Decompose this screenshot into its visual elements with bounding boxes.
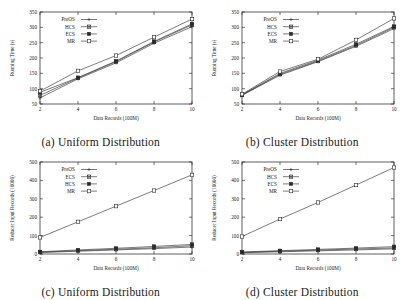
legend: PreOSECSHCSMR [61, 166, 97, 194]
y-tick-label: 0 [34, 251, 37, 257]
legend-label-ECS: ECS [267, 31, 277, 37]
x-tick-label: 4 [77, 256, 80, 262]
panel-d-caption: (d) Cluster Distribution [202, 286, 403, 298]
series-ECS [38, 22, 193, 94]
x-tick-label: 6 [316, 256, 319, 262]
x-tick-label: 8 [153, 106, 156, 112]
legend: PreOSHCSECSMR [61, 16, 97, 44]
y-tick-label: 150 [29, 70, 37, 76]
y-axis-label: Reducer Input Records (10000) [9, 175, 16, 241]
x-tick-label: 4 [278, 106, 281, 112]
x-axis-label: Data Records (100M) [295, 265, 341, 272]
legend-label-HCS: HCS [266, 174, 276, 180]
x-tick-label: 2 [240, 106, 243, 112]
y-tick-label: 150 [231, 70, 239, 76]
x-tick-label: 4 [278, 256, 281, 262]
panel-b-svg: 50100150200250300350246810Data Records (… [202, 0, 403, 128]
y-axis-label: Running Time (s) [211, 39, 218, 76]
y-tick-label: 100 [29, 233, 37, 239]
x-tick-label: 8 [354, 106, 357, 112]
legend: PreOSHCSECSMR [263, 166, 299, 194]
series-MR [38, 17, 193, 92]
legend-label-PreOS: PreOS [61, 166, 75, 172]
legend-label-ECS: ECS [65, 31, 75, 37]
x-tick-label: 2 [39, 256, 42, 262]
y-tick-label: 50 [233, 101, 239, 107]
y-tick-label: 500 [29, 159, 37, 165]
x-axis-label: Data Records (100M) [93, 265, 139, 272]
legend: PreOSHCSECSMR [263, 16, 299, 44]
x-tick-label: 6 [115, 106, 118, 112]
y-tick-label: 300 [231, 196, 239, 202]
x-tick-label: 2 [240, 256, 243, 262]
panel-c-caption: (c) Uniform Distribution [0, 286, 202, 298]
x-tick-label: 6 [115, 256, 118, 262]
y-axis: 50100150200250300350 [231, 9, 394, 107]
legend-label-PreOS: PreOS [61, 16, 75, 22]
legend-label-HCS: HCS [65, 181, 75, 187]
figure-row-bottom: 0100200300400500246810Data Records (100M… [0, 150, 403, 300]
y-tick-label: 300 [29, 24, 37, 30]
x-tick-label: 8 [354, 256, 357, 262]
figure-row-top: 50100150200250300350246810Data Records (… [0, 0, 403, 150]
panel-b-plot: 50100150200250300350246810Data Records (… [202, 0, 403, 128]
x-tick-label: 4 [77, 106, 80, 112]
y-tick-label: 200 [29, 214, 37, 220]
y-tick-label: 300 [29, 196, 37, 202]
x-tick-label: 10 [189, 256, 195, 262]
x-tick-label: 8 [153, 256, 156, 262]
y-tick-label: 350 [231, 9, 239, 15]
x-tick-label: 2 [39, 106, 42, 112]
legend-label-MR: MR [268, 38, 277, 44]
legend-label-ECS: ECS [65, 174, 75, 180]
legend-label-PreOS: PreOS [263, 16, 277, 22]
y-tick-label: 100 [231, 233, 239, 239]
y-tick-label: 500 [231, 159, 239, 165]
y-tick-label: 250 [231, 40, 239, 46]
legend-label-HCS: HCS [65, 24, 75, 30]
x-axis-label: Data Records (100M) [295, 115, 341, 122]
x-axis-label: Data Records (100M) [93, 115, 139, 122]
y-axis-label: Running Time (s) [9, 39, 16, 76]
legend-label-MR: MR [268, 188, 277, 194]
panel-a-plot: 50100150200250300350246810Data Records (… [0, 0, 202, 128]
y-tick-label: 400 [29, 177, 37, 183]
legend-label-ECS: ECS [267, 181, 277, 187]
panel-d-svg: 0100200300400500246810Data Records (100M… [202, 150, 403, 278]
y-tick-label: 250 [29, 40, 37, 46]
panel-c-svg: 0100200300400500246810Data Records (100M… [0, 150, 202, 278]
legend-label-MR: MR [67, 38, 76, 44]
panel-d-plot: 0100200300400500246810Data Records (100M… [202, 150, 403, 278]
plot-frame [40, 12, 192, 104]
x-tick-label: 10 [189, 106, 195, 112]
y-tick-label: 400 [231, 177, 239, 183]
legend-label-HCS: HCS [266, 24, 276, 30]
panel-a: 50100150200250300350246810Data Records (… [0, 0, 202, 150]
x-tick-label: 10 [391, 106, 397, 112]
y-tick-label: 350 [29, 9, 37, 15]
y-tick-label: 100 [231, 86, 239, 92]
y-tick-label: 100 [29, 86, 37, 92]
panel-b-caption: (b) Cluster Distribution [202, 136, 403, 148]
y-tick-label: 50 [32, 101, 38, 107]
y-tick-label: 200 [231, 55, 239, 61]
panel-a-caption: (a) Uniform Distribution [0, 136, 202, 148]
panel-c: 0100200300400500246810Data Records (100M… [0, 150, 202, 300]
y-tick-label: 300 [231, 24, 239, 30]
series-MR [38, 173, 193, 239]
x-tick-label: 6 [316, 106, 319, 112]
y-tick-label: 0 [236, 251, 239, 257]
plot-frame [242, 162, 394, 254]
series-MR [240, 166, 395, 238]
panel-b: 50100150200250300350246810Data Records (… [202, 0, 403, 150]
panel-c-plot: 0100200300400500246810Data Records (100M… [0, 150, 202, 278]
x-tick-label: 10 [391, 256, 397, 262]
panel-a-svg: 50100150200250300350246810Data Records (… [0, 0, 202, 128]
y-axis: 0100200300400500 [231, 159, 394, 257]
y-axis: 0100200300400500 [29, 159, 192, 257]
legend-label-MR: MR [67, 188, 76, 194]
y-tick-label: 200 [231, 214, 239, 220]
figure-four-panel-line-charts: 50100150200250300350246810Data Records (… [0, 0, 403, 300]
y-axis-label: Reducer Input Records (10000) [211, 175, 218, 241]
legend-label-PreOS: PreOS [263, 166, 277, 172]
